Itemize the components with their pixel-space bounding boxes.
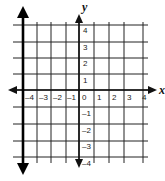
y-tick-label: –3 — [82, 142, 91, 151]
y-tick-label: 3 — [83, 43, 88, 52]
y-tick-label: –4 — [82, 159, 91, 168]
x-tick-label: –2 — [53, 93, 62, 102]
x-axis-left-arrow-icon — [8, 86, 17, 94]
x-tick-label: 2 — [112, 93, 117, 102]
x-tick-label: 1 — [97, 93, 102, 102]
y-tick-label: 4 — [83, 26, 88, 35]
x-axis-label: x — [158, 83, 165, 97]
graph-down-arrow-icon — [17, 163, 29, 175]
x-tick-label: –4 — [25, 93, 34, 102]
x-tick-label: 0 — [82, 93, 87, 102]
x-tick-labels: –4 –3 –2 –1 0 1 2 3 4 — [25, 93, 147, 102]
y-tick-label: 1 — [83, 76, 88, 85]
graph-up-arrow-icon — [17, 6, 29, 18]
y-axis-up-arrow-icon — [75, 14, 83, 23]
x-tick-label: –3 — [39, 93, 48, 102]
coordinate-plane: x y –4 –3 –2 –1 0 1 2 3 4 4 3 2 1 –1 –2 … — [0, 0, 165, 181]
x-axis-right-arrow-icon — [148, 86, 157, 94]
y-axis-label: y — [80, 0, 88, 14]
y-tick-label: –2 — [82, 126, 91, 135]
y-tick-label: 2 — [83, 59, 88, 68]
x-tick-label: 3 — [127, 93, 132, 102]
x-tick-label: 4 — [142, 93, 147, 102]
y-tick-label: –1 — [82, 109, 91, 118]
x-tick-label: –1 — [67, 93, 76, 102]
